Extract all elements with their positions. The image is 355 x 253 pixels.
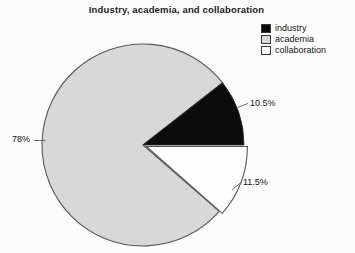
legend-swatch-industry [261, 24, 271, 33]
pie-chart-figure: Industry, academia, and collaboration 10… [0, 0, 355, 253]
legend-item-academia[interactable]: academia [261, 34, 326, 44]
leader-line-industry [238, 104, 249, 108]
legend-label-collaboration: collaboration [275, 45, 326, 55]
chart-legend: industry academia collaboration [261, 23, 326, 55]
value-label-collaboration: 11.5% [243, 177, 268, 187]
value-label-industry: 10.5% [250, 98, 276, 108]
legend-swatch-collaboration [261, 46, 271, 55]
legend-item-industry[interactable]: industry [261, 23, 326, 33]
legend-item-collaboration[interactable]: collaboration [261, 45, 326, 55]
legend-label-industry: industry [275, 23, 307, 33]
legend-swatch-academia [261, 35, 271, 44]
legend-label-academia: academia [275, 34, 314, 44]
value-label-academia: 78% [12, 134, 30, 144]
